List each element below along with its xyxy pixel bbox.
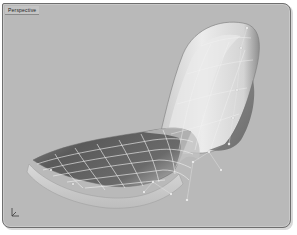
perspective-viewport[interactable]: Perspective (2, 3, 291, 228)
chair-surface-model[interactable] (3, 4, 290, 227)
world-axis-icon (9, 205, 23, 219)
